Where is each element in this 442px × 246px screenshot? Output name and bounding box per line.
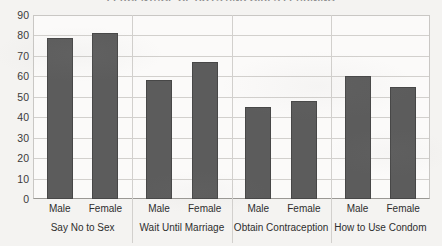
y-axis-tick-label: 50: [0, 92, 29, 103]
x-axis-series-label: Female: [75, 204, 135, 214]
y-axis-tick-label: 10: [0, 173, 29, 184]
chart-title: PERCENTAGE OF BOYS AND GIRLS LEARNING: [0, 0, 442, 1]
x-axis-series-label: Female: [274, 204, 334, 214]
bar: [390, 87, 416, 199]
y-axis-tick-label: 40: [0, 112, 29, 123]
y-axis-tick-label: 60: [0, 71, 29, 82]
bar: [92, 33, 118, 199]
y-axis-tick-label: 0: [0, 194, 29, 205]
x-axis: MaleFemaleSay No to SexMaleFemaleWait Un…: [33, 200, 430, 246]
y-axis-tick-label: 20: [0, 153, 29, 164]
x-axis-series-label: Female: [175, 204, 235, 214]
bar: [47, 38, 73, 200]
bar: [345, 76, 371, 199]
bar-chart: 9080706050403020100 MaleFemaleSay No to …: [0, 0, 442, 246]
bar: [245, 107, 271, 199]
bar: [192, 62, 218, 199]
x-axis-series-label: Female: [373, 204, 433, 214]
y-axis-tick-label: 30: [0, 132, 29, 143]
x-axis-group-label: How to Use Condom: [310, 223, 442, 233]
bar: [146, 80, 172, 199]
y-axis: 9080706050403020100: [0, 0, 29, 246]
y-axis-tick-label: 70: [0, 51, 29, 62]
y-axis-tick-label: 80: [0, 30, 29, 41]
y-axis-tick-label: 90: [0, 10, 29, 21]
bar: [291, 101, 317, 199]
